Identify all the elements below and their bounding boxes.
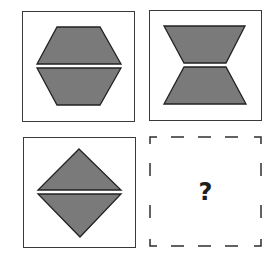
diamond-shape [38,149,121,237]
hexagon-shape [37,27,121,105]
hourglass-top-half [164,26,245,63]
diamond-top-half [38,149,121,190]
hourglass-shape [164,26,246,104]
diamond-bottom-half [38,194,121,237]
hexagon-top-half [37,27,121,64]
answer-placeholder-question-mark: ? [150,137,261,246]
hexagon-bottom-half [37,68,121,105]
hourglass-bottom-half [164,67,246,104]
